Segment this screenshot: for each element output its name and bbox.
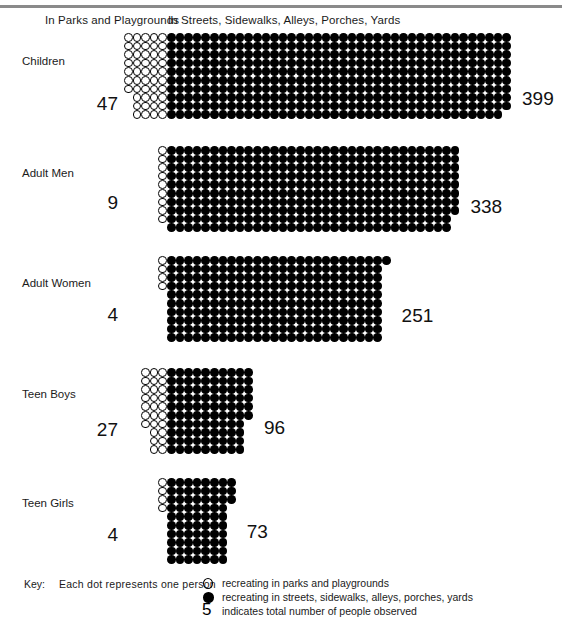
filled-dot bbox=[287, 155, 296, 164]
key-lead-text: Each dot represents one person bbox=[59, 578, 216, 590]
filled-dot bbox=[184, 504, 193, 513]
filled-dot bbox=[279, 206, 288, 215]
filled-dot bbox=[176, 163, 185, 172]
filled-dot bbox=[391, 93, 400, 102]
filled-dot bbox=[313, 316, 322, 325]
filled-dot bbox=[348, 85, 357, 94]
filled-dot bbox=[193, 59, 202, 68]
filled-dot bbox=[305, 172, 314, 181]
open-dot bbox=[133, 59, 142, 68]
pictogram-group bbox=[0, 368, 562, 458]
filled-dot bbox=[201, 299, 210, 308]
filled-dot bbox=[287, 215, 296, 224]
open-dot bbox=[158, 50, 167, 59]
filled-dot bbox=[184, 521, 193, 530]
filled-dot bbox=[382, 59, 391, 68]
filled-dot bbox=[348, 206, 357, 215]
filled-dot bbox=[434, 163, 443, 172]
filled-dot bbox=[227, 428, 236, 437]
filled-dot bbox=[373, 180, 382, 189]
filled-dot bbox=[279, 67, 288, 76]
filled-dot bbox=[305, 67, 314, 76]
filled-dot bbox=[416, 155, 425, 164]
filled-dot bbox=[322, 172, 331, 181]
filled-dot bbox=[348, 93, 357, 102]
filled-dot bbox=[176, 368, 185, 377]
filled-dot bbox=[365, 155, 374, 164]
filled-dot bbox=[262, 50, 271, 59]
filled-dot bbox=[330, 163, 339, 172]
filled-dot bbox=[459, 67, 468, 76]
filled-dot bbox=[244, 85, 253, 94]
filled-dot bbox=[219, 102, 228, 111]
filled-dot bbox=[373, 110, 382, 119]
filled-dot bbox=[262, 282, 271, 291]
filled-dot bbox=[176, 102, 185, 111]
filled-dot bbox=[287, 76, 296, 85]
filled-dot bbox=[434, 93, 443, 102]
filled-dot bbox=[434, 180, 443, 189]
filled-dot bbox=[391, 76, 400, 85]
filled-dot bbox=[330, 282, 339, 291]
filled-dot bbox=[313, 290, 322, 299]
open-dot bbox=[141, 42, 150, 51]
filled-dot bbox=[193, 325, 202, 334]
filled-dot bbox=[270, 316, 279, 325]
filled-dot bbox=[193, 265, 202, 274]
filled-dot bbox=[408, 198, 417, 207]
filled-dot bbox=[201, 67, 210, 76]
filled-dot bbox=[193, 290, 202, 299]
filled-dot bbox=[305, 189, 314, 198]
filled-dot bbox=[494, 110, 503, 119]
filled-dot bbox=[201, 495, 210, 504]
filled-dot bbox=[167, 478, 176, 487]
filled-dot bbox=[373, 206, 382, 215]
filled-dot bbox=[416, 180, 425, 189]
filled-dot bbox=[227, 67, 236, 76]
filled-dot bbox=[279, 308, 288, 317]
filled-dot bbox=[373, 42, 382, 51]
filled-dot bbox=[201, 265, 210, 274]
filled-dot bbox=[219, 85, 228, 94]
filled-dot bbox=[210, 333, 219, 342]
filled-dot bbox=[365, 180, 374, 189]
filled-dot bbox=[382, 172, 391, 181]
filled-dot bbox=[167, 538, 176, 547]
open-dot bbox=[150, 428, 159, 437]
filled-dot bbox=[236, 256, 245, 265]
filled-dot bbox=[244, 198, 253, 207]
pictogram-group bbox=[0, 146, 562, 236]
filled-dot bbox=[236, 59, 245, 68]
filled-dot bbox=[468, 102, 477, 111]
open-dot bbox=[141, 368, 150, 377]
filled-dot bbox=[210, 256, 219, 265]
filled-dot bbox=[382, 198, 391, 207]
filled-dot bbox=[244, 385, 253, 394]
filled-dot bbox=[416, 93, 425, 102]
filled-dot bbox=[330, 146, 339, 155]
filled-dot bbox=[279, 273, 288, 282]
filled-dot bbox=[296, 50, 305, 59]
filled-dot bbox=[167, 155, 176, 164]
filled-dot bbox=[244, 265, 253, 274]
filled-dot bbox=[408, 206, 417, 215]
filled-dot bbox=[313, 265, 322, 274]
filled-dot bbox=[442, 223, 451, 232]
filled-dot bbox=[193, 495, 202, 504]
filled-dot bbox=[184, 85, 193, 94]
filled-dot bbox=[201, 198, 210, 207]
open-dot bbox=[150, 368, 159, 377]
filled-dot bbox=[227, 85, 236, 94]
filled-dot bbox=[382, 155, 391, 164]
filled-dot bbox=[219, 110, 228, 119]
filled-dot bbox=[305, 223, 314, 232]
filled-dot bbox=[365, 325, 374, 334]
filled-dot bbox=[305, 316, 314, 325]
filled-dot bbox=[356, 146, 365, 155]
filled-dot bbox=[442, 33, 451, 42]
filled-dot bbox=[253, 206, 262, 215]
filled-dot bbox=[201, 428, 210, 437]
filled-dot bbox=[184, 256, 193, 265]
filled-dot bbox=[167, 110, 176, 119]
filled-dot bbox=[219, 50, 228, 59]
